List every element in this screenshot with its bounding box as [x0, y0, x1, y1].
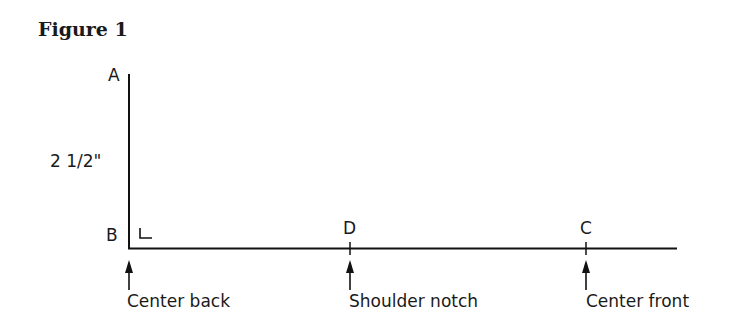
point-label-d: D	[343, 218, 356, 238]
point-label-c: C	[580, 218, 592, 238]
point-label-a: A	[108, 65, 120, 85]
arrow-up-icon	[582, 260, 590, 290]
arrow-up-icon	[346, 260, 354, 290]
point-label-b: B	[106, 225, 118, 245]
center-front-label: Center front	[586, 291, 689, 311]
pattern-diagram	[0, 0, 749, 330]
center-back-label: Center back	[127, 291, 230, 311]
right-angle-icon	[140, 228, 152, 238]
shoulder-notch-label: Shoulder notch	[349, 291, 478, 311]
arrow-up-icon	[125, 260, 133, 290]
measurement-label: 2 1/2"	[50, 151, 101, 171]
